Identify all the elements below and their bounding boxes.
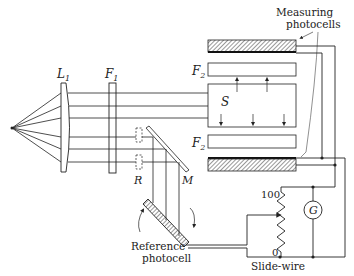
slide-wire-label: Slide-wire xyxy=(251,260,305,272)
reference-slot-label: R xyxy=(133,174,142,187)
filter-f2-top-label: F2 xyxy=(191,64,205,80)
reference-rotate-arrow xyxy=(139,210,143,232)
lens-label: L1 xyxy=(56,67,70,83)
slide-wire xyxy=(277,187,313,257)
source-rays xyxy=(12,93,61,162)
measuring-circuit xyxy=(247,46,345,257)
measuring-photocell-top xyxy=(208,40,296,52)
junction-2 xyxy=(333,163,336,166)
junction-4 xyxy=(311,255,314,258)
reference-photocell-label-2: photocell xyxy=(142,252,192,264)
slide-wire-max-label: 100 xyxy=(261,189,280,200)
sample-label: S xyxy=(221,95,229,109)
pointer-bottom xyxy=(301,32,318,157)
junction-1 xyxy=(320,156,323,159)
pointer-top xyxy=(301,32,313,38)
galvanometer-label: G xyxy=(309,204,318,217)
measuring-photocell-top-electrode xyxy=(208,51,296,53)
reference-slot-upper xyxy=(136,128,142,142)
lens-l1 xyxy=(61,83,70,172)
measuring-photocells-label-2: photocells xyxy=(286,18,341,30)
reference-lead xyxy=(186,215,273,248)
mirror-label: M xyxy=(181,174,194,187)
parallel-beams xyxy=(68,93,208,162)
mirror-rotate-arrow xyxy=(190,208,195,226)
photometer-diagram: L1 F1 R M Reference photocell F2 xyxy=(0,0,354,276)
filter-f1-label: F1 xyxy=(104,67,118,83)
measuring-photocells-label-1: Measuring xyxy=(276,6,334,18)
measuring-photocell-bottom xyxy=(208,159,296,171)
light-source-point xyxy=(11,127,14,130)
filter-f2-top xyxy=(208,63,296,76)
reference-slot-lower xyxy=(136,155,142,169)
scatter-arrows xyxy=(221,79,284,124)
reference-photocell-label-1: Reference xyxy=(131,240,185,252)
slide-wire-min-label: 0 xyxy=(272,247,278,258)
filter-f2-bottom-label: F2 xyxy=(191,136,205,152)
filter-f2-bottom xyxy=(208,135,296,148)
filter-f1 xyxy=(109,83,116,173)
